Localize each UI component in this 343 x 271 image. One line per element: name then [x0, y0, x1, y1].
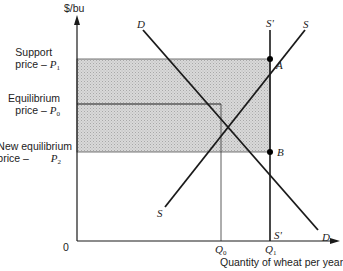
supply-label-top: S — [303, 18, 309, 30]
point-b-label: B — [277, 146, 284, 158]
support-price-label: Support price – P1 — [15, 46, 60, 74]
y-axis-arrow-icon — [74, 15, 80, 25]
y-axis-label: $/bu — [64, 2, 84, 14]
new-equilibrium-price-label: New equilibrium price –P2 — [0, 140, 72, 168]
x-axis-label: Quantity of wheat per year — [220, 256, 343, 268]
origin-label: 0 — [63, 241, 69, 253]
diagram-canvas — [0, 0, 343, 271]
surplus-shaded-region — [77, 59, 270, 152]
point-b-marker — [267, 149, 273, 155]
equilibrium-price-label: Equilibrium price – P0 — [8, 92, 60, 120]
supply-label-bottom: S — [157, 207, 163, 219]
q0-label: Q0 — [215, 243, 226, 259]
vertical-supply-label-top: S' — [266, 17, 274, 29]
point-a-marker — [267, 56, 273, 62]
vertical-supply-label-bottom: S' — [274, 229, 282, 241]
demand-label-bottom: D — [322, 231, 330, 243]
x-axis-arrow-icon — [330, 238, 340, 244]
point-a-label: A — [276, 59, 283, 71]
q1-label: Q1 — [265, 243, 276, 259]
demand-label-top: D — [137, 18, 145, 30]
